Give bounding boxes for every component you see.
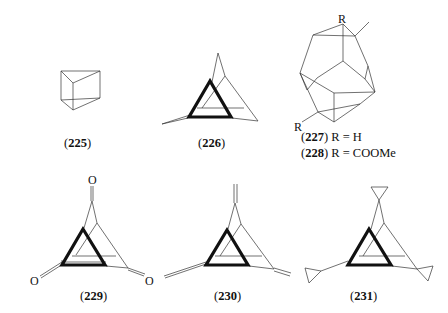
label-229: (229)	[80, 289, 107, 304]
oxygen-top: O	[88, 174, 97, 186]
structure-231	[305, 187, 433, 283]
label-230: (230)	[214, 289, 241, 304]
structure-230	[164, 184, 291, 278]
label-231: (231)	[350, 289, 377, 304]
label-228: (228) R = COOMe	[301, 146, 396, 161]
r-group-top: R	[338, 13, 346, 25]
label-227: (227) R = H	[301, 130, 362, 145]
structure-225-prismane	[61, 71, 100, 110]
structure-229	[40, 186, 145, 278]
oxygen-left: O	[30, 275, 39, 287]
label-225: (225)	[64, 136, 91, 151]
oxygen-right: O	[145, 275, 154, 287]
label-226: (226)	[198, 136, 225, 151]
structure-226	[162, 53, 258, 124]
structure-227-228	[300, 22, 375, 122]
